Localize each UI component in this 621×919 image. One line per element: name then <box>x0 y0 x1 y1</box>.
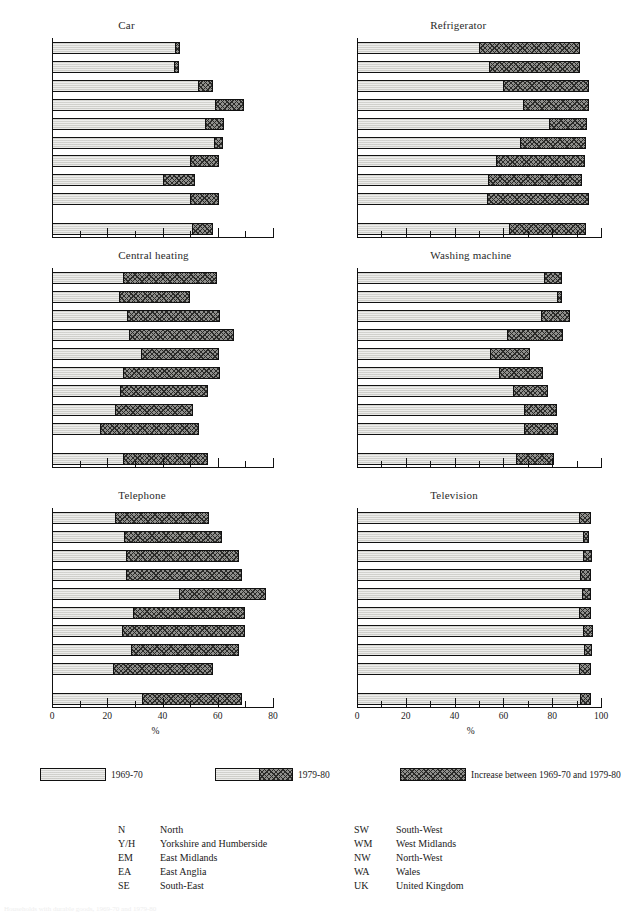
bar-EM <box>52 550 239 562</box>
bar-SE <box>357 348 530 360</box>
legend-item-0: 1969-70 <box>40 768 143 781</box>
bar-segment-increase <box>524 424 557 434</box>
bar-segment-increase <box>192 224 213 234</box>
bar-segment-increase <box>489 62 579 72</box>
bar-segment-1969-70 <box>53 513 115 523</box>
bar-segment-increase <box>524 405 556 415</box>
bar-segment-1969-70 <box>358 513 579 523</box>
legend-label: Increase between 1969-70 and 1979-80 <box>471 770 621 780</box>
x-tick-label-40: 40 <box>149 711 177 721</box>
bar-segment-increase <box>190 156 217 166</box>
bar-UK <box>357 693 591 705</box>
bar-segment-increase <box>509 224 586 234</box>
bar-UK <box>52 453 208 465</box>
bar-segment-increase <box>113 664 212 674</box>
bar-segment-1969-70 <box>53 386 120 396</box>
x-axis-major-tick-60 <box>503 698 504 707</box>
bar-segment-1969-70 <box>358 156 496 166</box>
x-axis-minor-tick-50 <box>190 461 191 467</box>
bar-segment-increase <box>580 570 590 580</box>
bar-segment-1969-70 <box>53 330 129 340</box>
key-abbr-left: EM <box>118 852 160 866</box>
bar-segment-1969-70 <box>53 589 179 599</box>
bar-segment-1969-70 <box>53 368 123 378</box>
legend-swatch-base-plus-increase <box>215 768 293 781</box>
bar-segment-increase <box>115 513 208 523</box>
bar-segment-1969-70 <box>358 175 488 185</box>
bar-SE <box>52 588 266 600</box>
x-axis-line <box>357 237 602 238</box>
bar-segment-increase <box>124 532 220 542</box>
bar-segment-1969-70 <box>53 311 127 321</box>
key-name-right: South-West <box>396 824 464 838</box>
bar-segment-increase <box>123 368 219 378</box>
bar-EM <box>357 310 570 322</box>
bar-WM <box>52 155 219 167</box>
x-axis-minor-tick-50 <box>190 701 191 707</box>
bar-WM <box>357 155 585 167</box>
bar-EA <box>52 99 244 111</box>
x-axis-major-tick-80 <box>273 698 274 707</box>
bar-EM <box>52 80 213 92</box>
bar-segment-1969-70 <box>53 645 131 655</box>
x-axis-minor-tick-90 <box>577 461 578 467</box>
x-axis-minor-tick-30 <box>430 461 431 467</box>
x-tick-label-0: 0 <box>38 711 66 721</box>
bar-segment-increase <box>205 119 223 129</box>
bar-segment-1969-70 <box>53 224 192 234</box>
legend-swatch-base-fill <box>41 769 105 780</box>
x-axis-major-tick-0 <box>357 228 358 237</box>
key-abbr-left: SE <box>118 880 160 894</box>
bar-segment-increase <box>499 368 543 378</box>
x-axis-title: % <box>151 726 159 736</box>
bar-segment-1969-70 <box>53 694 142 704</box>
bar-segment-increase <box>175 43 179 53</box>
x-axis-minor-tick-10 <box>381 231 382 237</box>
x-axis-major-tick-80 <box>273 458 274 467</box>
bar-Y-H <box>357 531 589 543</box>
bar-segment-1969-70 <box>53 664 113 674</box>
bar-Y-H <box>52 531 222 543</box>
panel-title: Telephone <box>118 489 165 501</box>
bar-segment-increase <box>174 62 178 72</box>
bar-EA <box>357 569 591 581</box>
bar-segment-increase <box>503 81 588 91</box>
bar-EM <box>52 310 220 322</box>
legend-swatch-increase-fill <box>259 769 292 780</box>
x-axis-line <box>52 237 274 238</box>
bar-NW <box>357 174 582 186</box>
x-axis-title: % <box>467 726 475 736</box>
bar-segment-increase <box>126 551 239 561</box>
bar-WM <box>357 625 593 637</box>
bar-segment-1969-70 <box>53 405 115 415</box>
bar-N <box>52 272 217 284</box>
bar-NW <box>52 644 239 656</box>
x-axis-major-tick-20 <box>107 698 108 707</box>
bar-UK <box>357 453 554 465</box>
x-axis-minor-tick-10 <box>381 461 382 467</box>
x-axis-minor-tick-50 <box>479 461 480 467</box>
bar-Y-H <box>357 61 580 73</box>
bar-SE <box>357 118 587 130</box>
bar-segment-increase <box>580 694 590 704</box>
x-axis-major-tick-20 <box>406 458 407 467</box>
bar-segment-1969-70 <box>53 100 215 110</box>
bar-segment-increase <box>549 119 587 129</box>
key-name-right: Wales <box>396 866 464 880</box>
x-axis-major-tick-40 <box>163 228 164 237</box>
bar-segment-1969-70 <box>53 81 198 91</box>
bar-segment-1969-70 <box>358 138 520 148</box>
bar-SW <box>52 367 220 379</box>
bar-SE <box>357 588 591 600</box>
bar-segment-1969-70 <box>53 292 119 302</box>
x-axis-minor-tick-70 <box>245 701 246 707</box>
bar-segment-1969-70 <box>358 273 544 283</box>
bar-segment-increase <box>215 100 242 110</box>
x-axis-major-tick-20 <box>406 698 407 707</box>
bar-segment-increase <box>142 694 241 704</box>
bar-segment-1969-70 <box>358 386 513 396</box>
key-abbr-right: WA <box>354 866 396 880</box>
x-axis-major-tick-60 <box>218 458 219 467</box>
bar-segment-increase <box>163 175 195 185</box>
bar-WM <box>52 385 208 397</box>
